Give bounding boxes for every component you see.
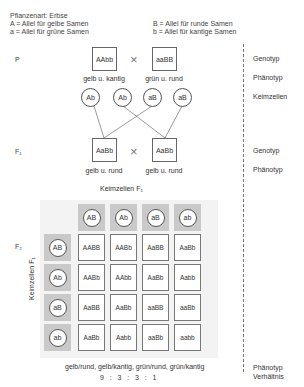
p-gamete-2: Ab <box>113 88 132 107</box>
col-header-cell: aB <box>142 204 169 231</box>
col-gamete-Ab: Ab <box>115 209 133 227</box>
punnett-cell: AaBb <box>110 294 137 321</box>
row-gamete-AB: AB <box>49 239 67 257</box>
col-header-cell: Ab <box>110 204 137 231</box>
f2-phenotypes: gelb/rund, gelb/kantig, grün/rund, grün/… <box>65 363 204 370</box>
p-gamete-4: aB <box>173 88 192 107</box>
col-gamete-ab: ab <box>179 209 197 227</box>
col-gamete-aB: aB <box>147 209 165 227</box>
punnett-cell: AaBb <box>142 264 169 291</box>
keimzellen-top-label: Keimzellen F₁ <box>100 185 143 192</box>
punnett-cell: aaBB <box>142 294 169 321</box>
row-header-cell: aB <box>44 294 71 321</box>
punnett-cell: AaBb <box>78 324 105 351</box>
f2-ratio: 9 : 3 : 3 : 1 <box>100 374 156 381</box>
punnett-cell: aabb <box>174 324 201 351</box>
punnett-cell: aaBb <box>142 324 169 351</box>
generation-label-f2: F₂ <box>15 243 22 250</box>
f1-parent-2-phenotype: gelb u. rund <box>134 167 194 174</box>
punnett-cell: AABB <box>78 234 105 261</box>
punnett-cell: AAbb <box>110 264 137 291</box>
col-gamete-AB: AB <box>83 209 101 227</box>
row-header-cell: AB <box>44 234 71 261</box>
p-gamete-1: Ab <box>81 88 100 107</box>
punnett-cell: Aabb <box>174 264 201 291</box>
f1-parent-1-phenotype: gelb u. rund <box>74 167 134 174</box>
row-header-cell: Ab <box>44 264 71 291</box>
row-header-cell: ab <box>44 324 71 351</box>
cross-icon: × <box>130 145 138 158</box>
col-header-cell: ab <box>174 204 201 231</box>
keimzellen-left-label: Keimzellen F₁ <box>28 257 35 300</box>
punnett-cell: AaBB <box>78 294 105 321</box>
generation-label-f1: F₁ <box>15 148 22 155</box>
col-header-cell: AB <box>78 204 105 231</box>
f1-parent-1-genotype: AaBb <box>92 138 117 162</box>
punnett-cell: aaBb <box>174 294 201 321</box>
punnett-cell: AaBb <box>174 234 201 261</box>
punnett-cell: Aabb <box>110 324 137 351</box>
row-gamete-ab: ab <box>49 329 67 347</box>
punnett-cell: AABb <box>110 234 137 261</box>
f1-parent-2-genotype: AaBb <box>152 138 177 162</box>
p-gamete-3: aB <box>143 88 162 107</box>
punnett-cell: AaBB <box>142 234 169 261</box>
punnett-cell: AABb <box>78 264 105 291</box>
row-gamete-Ab: Ab <box>49 269 67 287</box>
row-gamete-aB: aB <box>49 299 67 317</box>
